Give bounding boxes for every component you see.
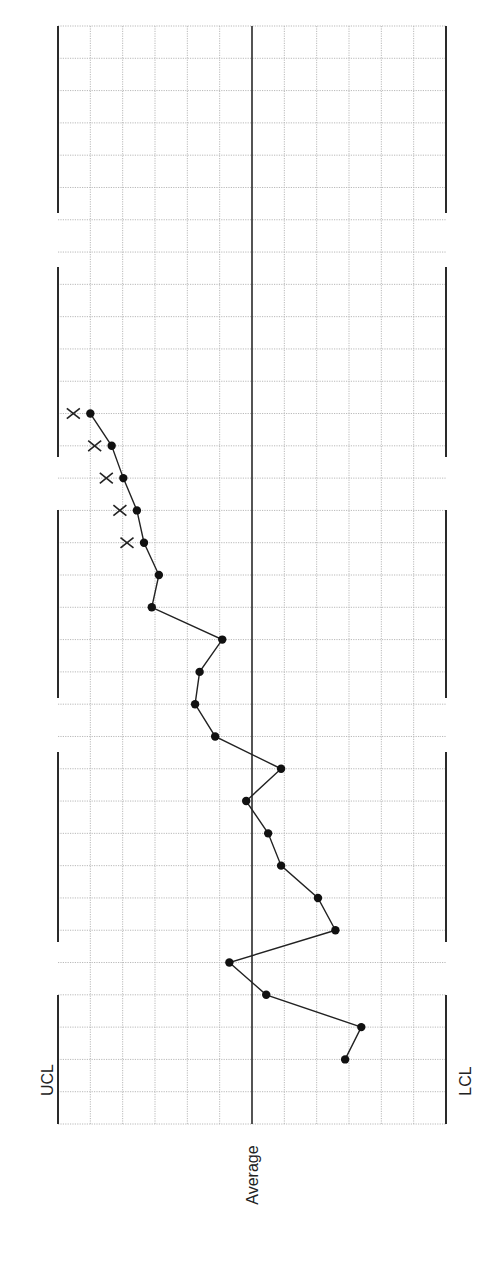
data-point (195, 668, 203, 676)
data-point (264, 829, 272, 837)
data-point (331, 926, 339, 934)
data-point (107, 442, 115, 450)
data-point (262, 991, 270, 999)
data-point (140, 539, 148, 547)
data-point (86, 409, 94, 417)
data-point (357, 1023, 365, 1031)
data-point (314, 894, 322, 902)
data-point (119, 474, 127, 482)
data-point (341, 1055, 349, 1063)
control-chart: UCL Average LCL (0, 0, 497, 1269)
data-point (211, 732, 219, 740)
chart-labels: UCL Average LCL (39, 1064, 474, 1205)
data-point (155, 571, 163, 579)
data-point (277, 765, 285, 773)
data-point (218, 635, 226, 643)
data-point (191, 700, 199, 708)
data-point (148, 603, 156, 611)
lcl-label: LCL (457, 1066, 474, 1095)
data-point (133, 506, 141, 514)
ucl-label: UCL (39, 1064, 56, 1096)
data-point (277, 861, 285, 869)
x-mark-icon (113, 505, 126, 515)
average-label: Average (244, 1145, 261, 1204)
data-point (225, 958, 233, 966)
data-point (242, 797, 250, 805)
